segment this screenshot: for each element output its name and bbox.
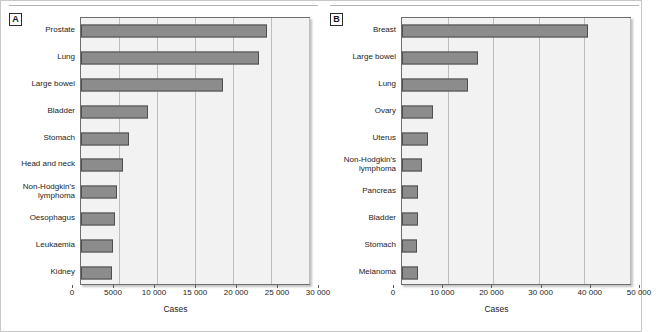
category-label: Bladder (3, 107, 75, 116)
bar (402, 186, 418, 199)
gridline (309, 18, 310, 284)
x-tick-label: 5000 (104, 288, 122, 297)
x-tick-label: 20 000 (479, 288, 503, 297)
gridline (539, 18, 540, 284)
x-tick-label: 30 000 (528, 288, 552, 297)
category-label: Pancreas (324, 187, 396, 196)
panel-a-plot: ProstateLungLarge bowelBladderStomachHea… (9, 17, 314, 285)
category-label: Stomach (3, 133, 75, 142)
category-label: Oesophagus (3, 214, 75, 223)
category-label: Melanoma (324, 267, 396, 276)
category-label: Bladder (324, 214, 396, 223)
category-label: Lung (3, 53, 75, 62)
bar (402, 266, 418, 279)
panel-b-category-labels: BreastLarge bowelLungOvaryUterusNon-Hodg… (330, 17, 400, 285)
panel-b-x-axis-ticks: 010 00020 00030 00040 00050 000 (393, 288, 639, 300)
bar (402, 79, 468, 92)
category-label: Non-Hodgkin's lymphoma (3, 183, 75, 200)
x-tick-label: 20 000 (224, 288, 248, 297)
bar (81, 25, 267, 38)
panel-b: B BreastLarge bowelLungOvaryUterusNon-Ho… (322, 1, 643, 332)
category-label: Lung (324, 80, 396, 89)
bar (81, 79, 223, 92)
panel-b-top-rule (330, 5, 639, 6)
x-tick-label: 40 000 (578, 288, 602, 297)
bar (81, 105, 148, 118)
category-label: Breast (324, 26, 396, 35)
bar (402, 159, 422, 172)
category-label: Uterus (324, 133, 396, 142)
panel-a-category-labels: ProstateLungLarge bowelBladderStomachHea… (9, 17, 79, 285)
bar (81, 159, 123, 172)
panel-a-axis-title: Cases (15, 304, 336, 314)
bar (402, 239, 417, 252)
panel-a: A ProstateLungLarge bowelBladderStomachH… (1, 1, 322, 332)
category-label: Large bowel (324, 53, 396, 62)
bar (81, 132, 129, 145)
category-label: Non-Hodgkin's lymphoma (324, 156, 396, 173)
category-label: Ovary (324, 107, 396, 116)
bar (402, 52, 478, 65)
x-tick-label: 15 000 (183, 288, 207, 297)
x-tick-label: 10 000 (142, 288, 166, 297)
bar (402, 132, 428, 145)
category-label: Stomach (324, 241, 396, 250)
x-tick-label: 0 (391, 288, 395, 297)
panel-a-top-rule (9, 5, 318, 6)
gridline (584, 18, 585, 284)
bar (81, 52, 259, 65)
x-tick-label: 0 (70, 288, 74, 297)
bar (81, 266, 112, 279)
category-label: Large bowel (3, 80, 75, 89)
gridline (493, 18, 494, 284)
gridline (271, 18, 272, 284)
panel-b-plot: BreastLarge bowelLungOvaryUterusNon-Hodg… (330, 17, 635, 285)
category-label: Prostate (3, 26, 75, 35)
x-tick-label: 25 000 (265, 288, 289, 297)
panel-a-plot-area (80, 17, 310, 285)
category-label: Leukaemia (3, 241, 75, 250)
bar (402, 25, 588, 38)
bar (81, 213, 115, 226)
category-label: Kidney (3, 267, 75, 276)
bar (81, 186, 117, 199)
category-label: Head and neck (3, 160, 75, 169)
panel-a-x-axis-ticks: 0500010 00015 00020 00025 00030 000 (72, 288, 318, 300)
panel-b-axis-title: Cases (336, 304, 656, 314)
panel-b-plot-area (401, 17, 631, 285)
x-tick-label: 50 000 (627, 288, 651, 297)
bar (402, 213, 418, 226)
gridline (630, 18, 631, 284)
bar (402, 105, 433, 118)
x-tick-label: 10 000 (430, 288, 454, 297)
bar (81, 239, 113, 252)
